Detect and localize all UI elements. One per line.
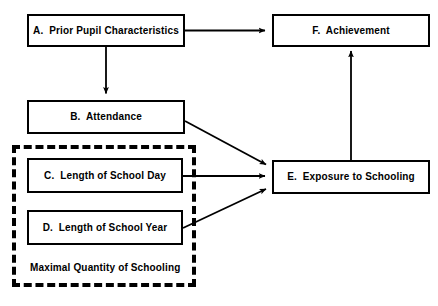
node-c-length-of-school-day[interactable]: C. Length of School Day [27, 158, 183, 193]
group-label: Maximal Quantity of Schooling [30, 262, 180, 273]
diagram-canvas: Maximal Quantity of Schooling A. Prior P… [0, 0, 438, 306]
node-d-length-of-school-year[interactable]: D. Length of School Year [27, 210, 183, 245]
node-e-label: E. Exposure to Schooling [287, 172, 415, 182]
node-f-label: F. Achievement [312, 26, 389, 36]
node-b-attendance[interactable]: B. Attendance [27, 100, 185, 134]
node-b-label: B. Attendance [70, 112, 142, 122]
edge-b-to-e [185, 121, 266, 165]
node-a-prior-pupil-characteristics[interactable]: A. Prior Pupil Characteristics [27, 14, 185, 47]
node-c-label: C. Length of School Day [44, 171, 166, 181]
node-f-achievement[interactable]: F. Achievement [272, 14, 430, 47]
node-e-exposure-to-schooling[interactable]: E. Exposure to Schooling [272, 160, 430, 194]
node-a-label: A. Prior Pupil Characteristics [33, 26, 179, 36]
node-d-label: D. Length of School Year [43, 223, 168, 233]
